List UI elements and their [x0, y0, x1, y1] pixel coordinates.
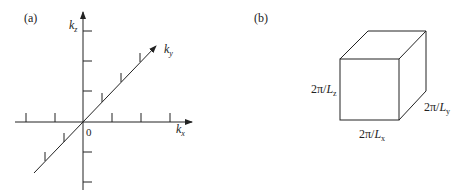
- cube-front-face: [340, 59, 399, 120]
- cube: [340, 31, 426, 120]
- figure: (a) 0: [0, 0, 457, 194]
- edge-label-y: 2π/Ly: [424, 100, 450, 116]
- cube-top-face: [340, 31, 426, 59]
- kz-label: kz: [69, 18, 78, 34]
- kx-label: kx: [176, 122, 185, 138]
- edge-label-x: 2π/Lx: [359, 127, 385, 143]
- ky-axis: [34, 46, 156, 173]
- panel-a: (a) 0: [15, 11, 192, 190]
- panel-a-label: (a): [24, 11, 37, 25]
- edge-label-z: 2π/Lz: [311, 82, 337, 98]
- panel-b: (b) 2π/Lz 2π/Ly 2π/Lx: [254, 11, 450, 143]
- ky-ticks: [45, 53, 140, 161]
- ky-label: ky: [164, 42, 173, 58]
- kz-ticks: [83, 31, 92, 182]
- kx-ticks: [26, 113, 170, 122]
- origin-label: 0: [86, 126, 92, 138]
- panel-b-label: (b): [254, 11, 268, 25]
